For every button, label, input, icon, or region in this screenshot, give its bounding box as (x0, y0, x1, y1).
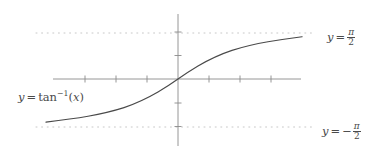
curve-label-y: y (18, 90, 25, 104)
asymptote-bottom-label: y=−π2 (322, 122, 361, 142)
asym-top-fraction: π2 (347, 28, 355, 48)
asymptote-top-label: y=π2 (327, 28, 355, 48)
curve-label-exponent: −1 (57, 89, 69, 98)
asym-top-numerator: π (347, 28, 355, 37)
asym-top-denominator: 2 (347, 37, 355, 47)
asym-top-equals: = (334, 30, 348, 44)
curve-label-close-paren: ) (80, 90, 85, 104)
asym-bottom-minus: − (342, 124, 353, 138)
asym-bottom-fraction: π2 (353, 122, 361, 142)
curve-function-label: y=tan−1(x) (18, 92, 84, 104)
asym-bottom-y: y (322, 124, 329, 138)
asym-bottom-denominator: 2 (353, 131, 361, 141)
curve-label-function: tan (38, 90, 57, 104)
asym-bottom-numerator: π (353, 122, 361, 131)
curve-label-equals: = (25, 90, 39, 104)
asym-top-y: y (327, 30, 334, 44)
arctangent-graph-figure: y=tan−1(x) y=π2 y=−π2 (0, 0, 383, 157)
asym-bottom-equals: = (329, 124, 343, 138)
